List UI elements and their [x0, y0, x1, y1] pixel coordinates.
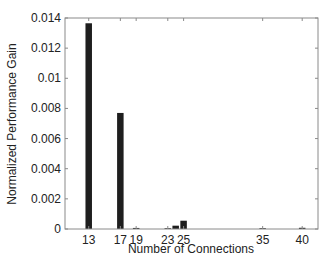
y-axis-ticks: 00.0020.0040.0060.0080.010.0120.014	[31, 11, 318, 236]
y-tick-label: 0.014	[31, 11, 61, 25]
x-tick-label: 17	[114, 233, 128, 247]
y-tick-label: 0	[54, 222, 61, 236]
axes-frame	[65, 18, 318, 229]
y-tick-label: 0.008	[31, 101, 61, 115]
y-axis-label: Normalized Performance Gain	[5, 43, 19, 204]
y-tick-label: 0.004	[31, 162, 61, 176]
x-tick-label: 35	[256, 233, 270, 247]
bar-chart: 00.0020.0040.0060.0080.010.0120.014 1317…	[0, 0, 334, 269]
bars	[85, 23, 305, 229]
x-tick-label: 40	[296, 233, 310, 247]
x-axis-ticks: 13171923253540	[82, 18, 309, 247]
x-tick-label: 13	[82, 233, 96, 247]
bar-17	[117, 113, 124, 229]
y-tick-label: 0.002	[31, 192, 61, 206]
y-tick-label: 0.01	[38, 71, 62, 85]
x-axis-label: Number of Connections	[128, 242, 254, 256]
y-tick-label: 0.006	[31, 132, 61, 146]
bar-13	[85, 23, 92, 229]
y-tick-label: 0.012	[31, 41, 61, 55]
